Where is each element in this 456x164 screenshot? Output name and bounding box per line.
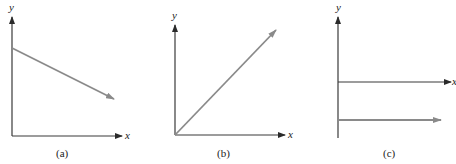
positive-slope-line	[175, 30, 276, 135]
panel-c: y x (c)	[335, 1, 456, 160]
x-axis-label: x	[451, 75, 456, 87]
y-axis-label: y	[8, 1, 14, 13]
x-axis-label: x	[124, 129, 130, 141]
panel-a: y x (a)	[8, 1, 130, 160]
y-axis-label: y	[171, 9, 177, 21]
y-axis-label: y	[335, 1, 341, 13]
diagram-canvas: y x (a) y x (b) y x (c)	[0, 0, 456, 164]
x-axis-label: x	[287, 128, 293, 140]
panel-caption: (c)	[383, 147, 396, 160]
panel-b: y x (b)	[171, 9, 293, 160]
panel-caption: (b)	[217, 147, 230, 160]
negative-slope-line	[12, 48, 114, 99]
panel-caption: (a)	[56, 147, 69, 160]
